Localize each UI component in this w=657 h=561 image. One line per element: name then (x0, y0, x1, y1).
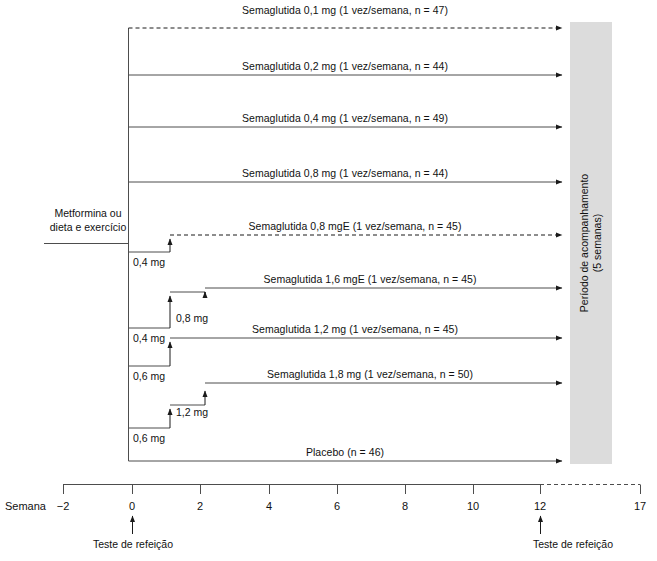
arm-label-semaglutida-0-1mg: Semaglutida 0,1 mg (1 vez/semana, n = 47… (242, 4, 448, 16)
arm-label-semaglutida-0-2mg: Semaglutida 0,2 mg (1 vez/semana, n = 44… (242, 60, 448, 72)
axis-tick-label-week-12: 12 (534, 500, 546, 512)
background-therapy-line1: Metformina ou (54, 207, 121, 219)
arm-label-semaglutida-0-8mg: Semaglutida 0,8 mg (1 vez/semana, n = 44… (242, 167, 448, 179)
axis-tick-label-week-0: 0 (129, 500, 135, 512)
axis-tick-label-week-2: 2 (197, 500, 203, 512)
arm-label-semaglutida-1-8mg: Semaglutida 1,8 mg (1 vez/semana, n = 50… (267, 368, 473, 380)
followup-line2: (5 semanas) (591, 214, 603, 272)
meal-test-label-week-12: Teste de refeição (533, 538, 613, 550)
arm-label-semaglutida-0-4mg: Semaglutida 0,4 mg (1 vez/semana, n = 49… (242, 112, 448, 124)
background-therapy-label: Metformina ou dieta e exercício (50, 206, 126, 234)
meal-test-label-week-0: Teste de refeição (93, 538, 173, 550)
arm-label-placebo: Placebo (n = 46) (306, 446, 384, 458)
arm-label-semaglutida-0-8mgE: Semaglutida 0,8 mgE (1 vez/semana, n = 4… (248, 220, 461, 232)
followup-line1: Período de acompanhamento (578, 174, 590, 312)
axis-tick-label-week-8: 8 (402, 500, 408, 512)
followup-period-label: Período de acompanhamento (5 semanas) (578, 174, 604, 312)
axis-name-semana: Semana (5, 500, 46, 512)
dose-annotation-0-6mg-arm8: 0,6 mg (133, 432, 165, 444)
axis-tick-label-week-6: 6 (334, 500, 340, 512)
arm-label-semaglutida-1-6mgE: Semaglutida 1,6 mgE (1 vez/semana, n = 4… (263, 273, 476, 285)
dose-annotation-0-4mg-arm6: 0,4 mg (133, 332, 165, 344)
axis-tick-label-week-4: 4 (266, 500, 272, 512)
dose-annotation-0-8mg-arm6: 0,8 mg (176, 312, 208, 324)
axis-tick-label-week-17: 17 (634, 500, 646, 512)
dose-annotation-0-6mg-arm7: 0,6 mg (133, 370, 165, 382)
dose-annotation-0-4mg-arm5: 0,4 mg (133, 256, 165, 268)
dose-annotation-1-2mg-arm8: 1,2 mg (176, 406, 208, 418)
axis-tick-label-week--2: −2 (57, 500, 70, 512)
trial-design-figure: Metformina ou dieta e exercício Semaglut… (0, 0, 657, 561)
arm-label-semaglutida-1-2mg: Semaglutida 1,2 mg (1 vez/semana, n = 45… (252, 323, 458, 335)
background-therapy-line2: dieta e exercício (50, 221, 126, 233)
axis-tick-label-week-10: 10 (467, 500, 479, 512)
